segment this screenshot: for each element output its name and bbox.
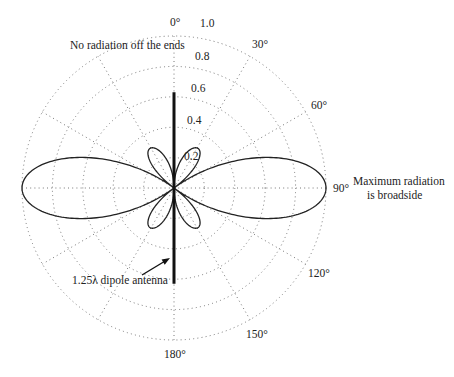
radial-label-0.6: 0.6 xyxy=(191,82,206,94)
annotation-no-radiation-ends: No radiation off the ends xyxy=(70,39,185,51)
angle-label-150: 150° xyxy=(246,328,268,340)
radial-label-0.2: 0.2 xyxy=(184,150,199,162)
angle-label-180: 180° xyxy=(164,348,186,360)
annotation-max-radiation-line1: Maximum radiation xyxy=(353,175,445,187)
antenna-arrow xyxy=(142,261,166,276)
grid-spoke-120 xyxy=(174,188,306,264)
grid-spoke-300 xyxy=(42,112,174,188)
grid-spoke-240 xyxy=(42,188,174,264)
angle-label-120: 120° xyxy=(308,267,330,279)
radial-label-0.4: 0.4 xyxy=(187,114,202,126)
angle-label-90: 90° xyxy=(333,182,350,194)
angle-label-0: 0° xyxy=(170,16,181,28)
polar-plot: 0° 30° 60° 90° 120° 150° 180° 1.0 0.8 0.… xyxy=(0,0,454,377)
radial-label-0.8: 0.8 xyxy=(195,50,210,62)
annotation-dipole-antenna: 1.25λ dipole antenna xyxy=(72,274,168,287)
angle-label-60: 60° xyxy=(311,99,328,111)
angle-label-30: 30° xyxy=(252,38,269,50)
annotation-max-radiation-line2: is broadside xyxy=(367,189,422,201)
antenna-arrow-head xyxy=(162,258,170,265)
radial-label-1.0: 1.0 xyxy=(200,17,215,29)
